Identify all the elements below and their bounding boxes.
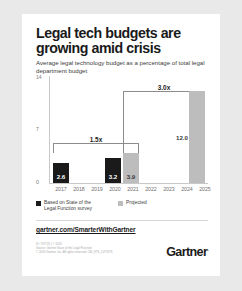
legend-item-projected: Projected [118,200,178,206]
x-axis-labels: 2017 2018 2019 2020 2021 2022 2023 2024 … [49,186,208,196]
legend-label: Based on State of the Legal Function sur… [44,200,92,212]
page-subtitle: Average legal technology budget as a per… [36,59,206,75]
bar-chart: 14 7 0 1.5x 3.0x 2.6 3.2 3.9 [36,76,208,193]
x-axis-line [49,183,208,184]
y-tick-label: 7 [36,126,47,132]
gartner-logo-mark: . [207,246,208,252]
legend-label: Projected [126,200,147,206]
page-title: Legal tech budgets are growing amid cris… [36,26,208,55]
infographic-card: Legal tech budgets are growing amid cris… [22,14,220,276]
growth-multiplier-label: 3.0x [124,84,204,91]
legend-swatch-icon [36,201,41,206]
gartner-logo: Gartner. [166,245,208,259]
x-label-2025: 2025 [193,186,217,192]
fine-print: ID: 737725 | © 2020 Source: Gartner Stat… [36,242,156,255]
bar-value-label: 3.9 [123,173,139,180]
bar-2020: 3.9 [123,153,139,183]
plot-area: 1.5x 3.0x 2.6 3.2 3.9 12.0 [49,76,208,183]
bar-2017: 2.6 [53,163,69,183]
legend-swatch-icon [118,201,123,206]
legend-item-actual: Based on State of the Legal Function sur… [36,200,106,212]
gartner-logo-text: Gartner [166,245,207,259]
bar-value-label: 3.2 [105,173,121,180]
footer-divider [36,220,208,221]
bar-value-label: 12.0 [176,134,188,141]
y-tick-label: 14 [36,74,47,80]
bar-2019: 3.2 [105,158,121,183]
bar-value-label: 2.6 [53,173,69,180]
bar-2025: 12.0 [189,91,205,183]
gartner-url-link[interactable]: gartner.com/SmarterWithGartner [36,226,136,233]
y-tick-label: 0 [36,179,47,185]
